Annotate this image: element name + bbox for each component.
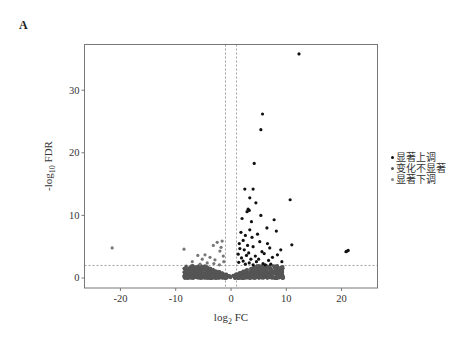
data-point xyxy=(216,241,219,244)
data-point xyxy=(258,240,261,243)
data-point xyxy=(201,258,204,261)
data-point xyxy=(252,245,255,248)
data-point xyxy=(191,260,194,263)
data-point xyxy=(248,228,251,231)
data-point xyxy=(297,52,300,55)
data-point xyxy=(246,244,249,247)
y-axis-title: -log10 FDR xyxy=(42,140,57,191)
data-point xyxy=(254,254,257,257)
data-point xyxy=(250,236,253,239)
legend-item-ns: 变化不显著 xyxy=(391,163,446,174)
legend-label: 显著上调 xyxy=(396,152,436,163)
data-point xyxy=(218,263,221,266)
x-tick-label: 10 xyxy=(281,293,292,304)
data-point xyxy=(280,260,283,263)
data-point xyxy=(254,201,257,204)
data-point xyxy=(279,248,282,251)
data-point xyxy=(253,162,256,165)
data-point xyxy=(269,263,272,266)
data-point xyxy=(238,242,241,245)
y-tick-label: 10 xyxy=(69,210,80,221)
data-point xyxy=(243,248,246,251)
data-point xyxy=(237,261,240,264)
legend-dot-icon xyxy=(391,178,394,181)
data-point xyxy=(218,249,221,252)
data-point xyxy=(238,247,241,250)
data-point xyxy=(206,261,209,264)
legend-item-up: 显著上调 xyxy=(391,152,446,163)
data-point xyxy=(263,252,266,255)
data-point xyxy=(198,263,201,266)
legend-label: 显著下调 xyxy=(396,174,436,185)
data-point xyxy=(242,259,245,262)
legend-label: 变化不显著 xyxy=(396,163,446,174)
data-point xyxy=(213,258,216,261)
data-point xyxy=(248,196,251,199)
data-point xyxy=(268,246,271,249)
x-tick-label: -20 xyxy=(113,293,127,304)
data-point xyxy=(256,233,259,236)
data-point xyxy=(222,254,225,257)
data-point xyxy=(259,128,262,131)
data-point xyxy=(221,239,224,242)
y-tick-label: 20 xyxy=(69,147,80,158)
data-point xyxy=(267,259,270,262)
data-point xyxy=(252,187,255,190)
data-point xyxy=(243,187,246,190)
data-point xyxy=(259,214,262,217)
data-point xyxy=(261,112,264,115)
x-axis-title: log2 FC xyxy=(214,311,248,326)
data-point xyxy=(290,243,293,246)
data-point xyxy=(247,251,250,254)
x-tick-label: 20 xyxy=(336,293,347,304)
data-point xyxy=(222,260,225,263)
data-point xyxy=(239,231,242,234)
data-point xyxy=(219,246,222,249)
data-point xyxy=(203,253,206,256)
data-point xyxy=(289,198,292,201)
data-point xyxy=(237,253,240,256)
data-point xyxy=(250,220,253,223)
y-tick-label: 0 xyxy=(74,272,79,283)
data-point xyxy=(245,254,248,257)
legend-item-down: 显著下调 xyxy=(391,174,446,185)
data-point xyxy=(196,254,199,257)
data-point xyxy=(244,263,247,266)
data-point xyxy=(275,229,278,232)
data-point xyxy=(265,226,268,229)
data-point xyxy=(264,263,267,266)
legend: 显著上调 变化不显著 显著下调 xyxy=(391,152,446,185)
data-point xyxy=(273,218,276,221)
data-point xyxy=(111,246,114,249)
y-tick-label: 30 xyxy=(69,85,80,96)
data-point xyxy=(249,258,252,261)
data-point xyxy=(248,261,251,264)
x-tick-label: -10 xyxy=(169,293,183,304)
legend-dot-icon xyxy=(391,167,394,170)
data-point xyxy=(212,262,215,265)
data-point xyxy=(245,210,248,213)
data-point xyxy=(255,260,258,263)
data-point xyxy=(240,217,243,220)
plot-frame xyxy=(85,45,378,289)
data-point xyxy=(208,256,211,259)
data-point xyxy=(347,249,350,252)
data-point xyxy=(266,242,269,245)
data-point xyxy=(240,256,243,259)
data-point xyxy=(257,258,260,261)
legend-dot-icon xyxy=(391,156,394,159)
data-point xyxy=(212,244,215,247)
data-point xyxy=(182,248,185,251)
data-point xyxy=(276,253,279,256)
x-tick-label: 0 xyxy=(228,293,233,304)
data-point xyxy=(242,239,245,242)
data-point xyxy=(271,256,274,259)
data-point xyxy=(252,263,255,266)
data-point xyxy=(244,234,247,237)
